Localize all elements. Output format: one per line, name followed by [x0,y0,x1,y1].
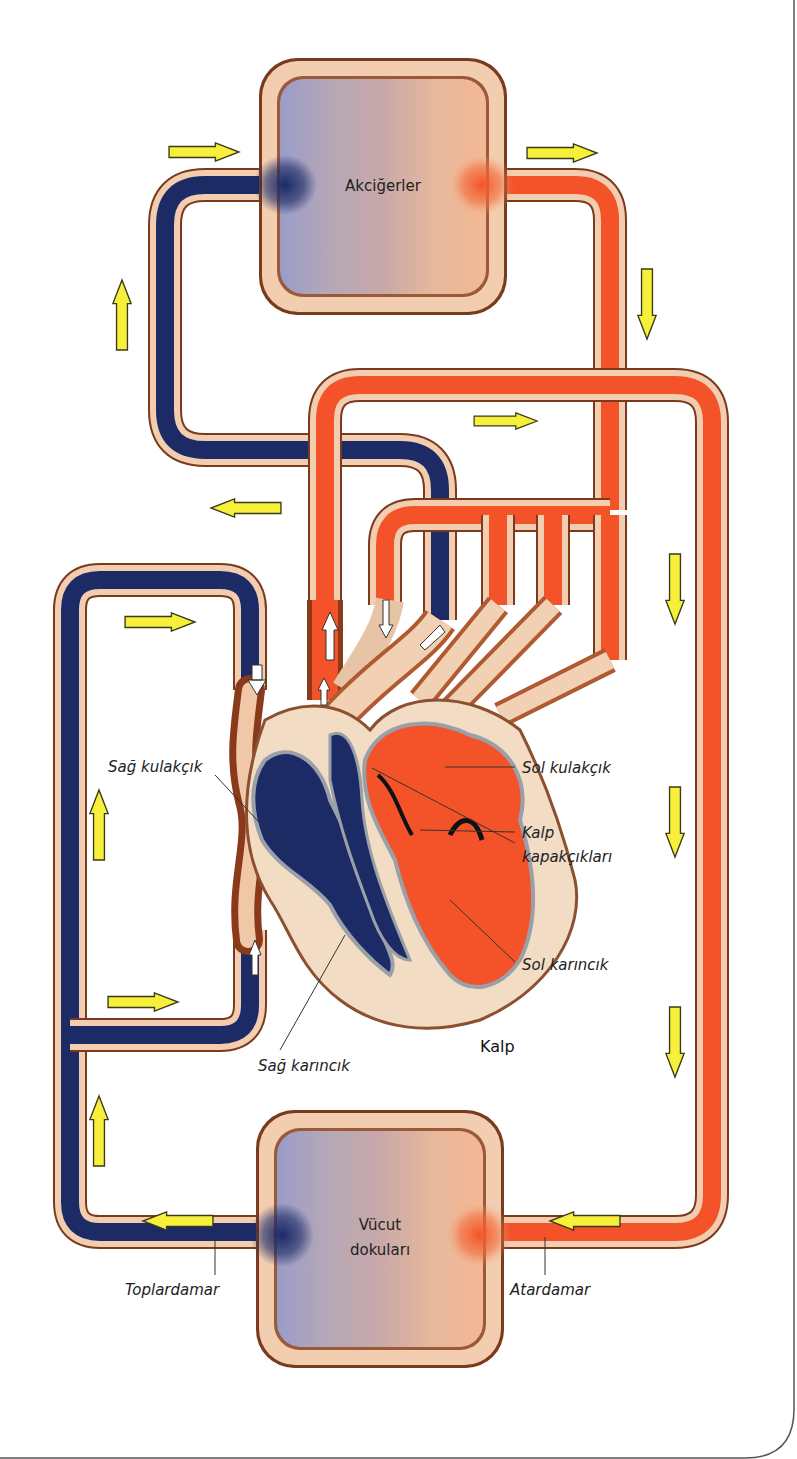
flow-arrow-right-icon [169,143,239,161]
label-right-atrium: Sağ kulakçık [108,758,204,776]
flow-arrow-up-icon [90,1096,108,1166]
flow-arrow-down-icon [666,787,684,857]
label-artery: Atardamar [509,1281,591,1299]
flow-arrow-down-icon [666,1007,684,1077]
flow-arrow-right-icon [125,613,195,631]
flow-arrow-right-icon [527,144,597,162]
label-vein: Toplardamar [125,1281,220,1299]
flow-arrow-left-icon [211,499,281,517]
label-left-ventricle: Sol karıncık [522,956,610,974]
flow-arrow-down-icon [666,554,684,624]
flow-arrow-right-icon [108,993,178,1011]
flow-arrow-up-icon [113,280,131,350]
body-tissues-organ: Vücut dokuları [250,1110,511,1368]
flow-arrow-right-icon [474,413,537,429]
vessels [70,185,712,1232]
label-valves-line2: kapakçıkları [522,848,612,866]
flow-arrow-up-icon [90,790,108,860]
label-right-ventricle: Sağ karıncık [258,1057,351,1075]
body-tissues-label-line1: Vücut [359,1216,402,1234]
lungs-organ: Akciğerler [253,58,514,315]
circulatory-system-diagram: Akciğerler Vücut dokuları [0,0,797,1459]
flow-arrow-down-icon [638,269,656,339]
label-left-atrium: Sol kulakçık [522,759,612,777]
body-tissues-label-line2: dokuları [350,1241,410,1259]
label-valves-line1: Kalp [522,824,554,842]
lungs-label: Akciğerler [345,177,422,195]
heart-title: Kalp [480,1037,515,1056]
